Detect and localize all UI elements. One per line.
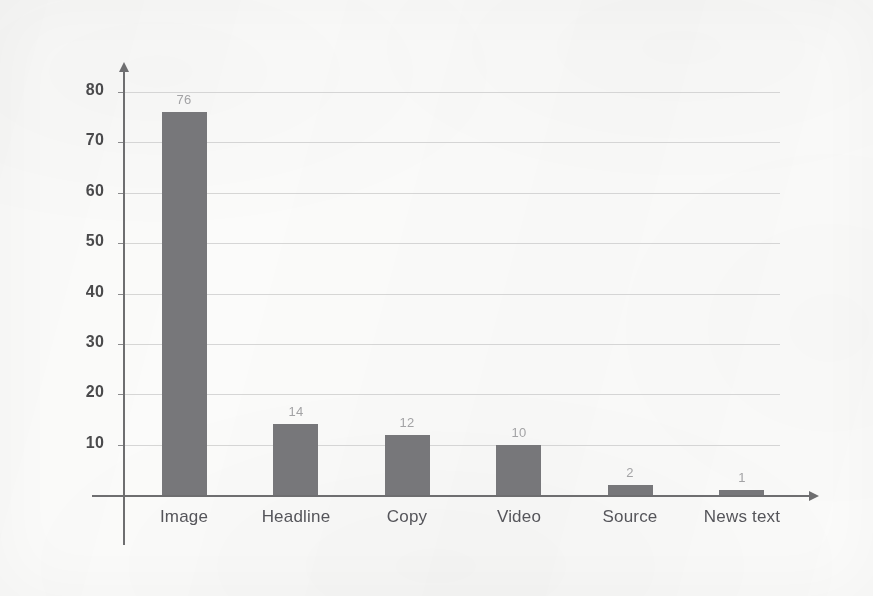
bar-value-label: 12 [377, 415, 437, 430]
y-axis-line [123, 72, 125, 545]
y-axis-tick-label: 40 [68, 283, 104, 301]
bar [385, 435, 430, 495]
gridline [124, 92, 780, 93]
bar-value-label: 10 [489, 425, 549, 440]
x-axis-arrow-icon [809, 491, 819, 501]
gridline [124, 445, 780, 446]
y-axis-tick-label: 50 [68, 232, 104, 250]
gridline [124, 193, 780, 194]
bar [608, 485, 653, 495]
y-axis-tick-label: 70 [68, 131, 104, 149]
gridline [124, 344, 780, 345]
bar [162, 112, 207, 495]
x-axis-line [92, 495, 810, 497]
y-axis-tick-label: 20 [68, 383, 104, 401]
bar-value-label: 76 [154, 92, 214, 107]
bar [719, 490, 764, 495]
y-axis-tick-label: 80 [68, 81, 104, 99]
bar-value-label: 14 [266, 404, 326, 419]
gridline [124, 243, 780, 244]
chart-page: 1020304050607080 7614121021 ImageHeadlin… [0, 0, 873, 596]
y-axis-tick-label: 10 [68, 434, 104, 452]
bar [273, 424, 318, 495]
bar-chart: 1020304050607080 7614121021 ImageHeadlin… [0, 0, 873, 596]
y-axis-tick-label: 60 [68, 182, 104, 200]
gridline [124, 294, 780, 295]
gridline [124, 394, 780, 395]
bar-value-label: 2 [600, 465, 660, 480]
bar-value-label: 1 [712, 470, 772, 485]
y-axis-arrow-icon [119, 62, 129, 72]
y-axis-tick-label: 30 [68, 333, 104, 351]
gridline [124, 142, 780, 143]
bar [496, 445, 541, 495]
x-axis-category-label: News text [662, 507, 822, 527]
